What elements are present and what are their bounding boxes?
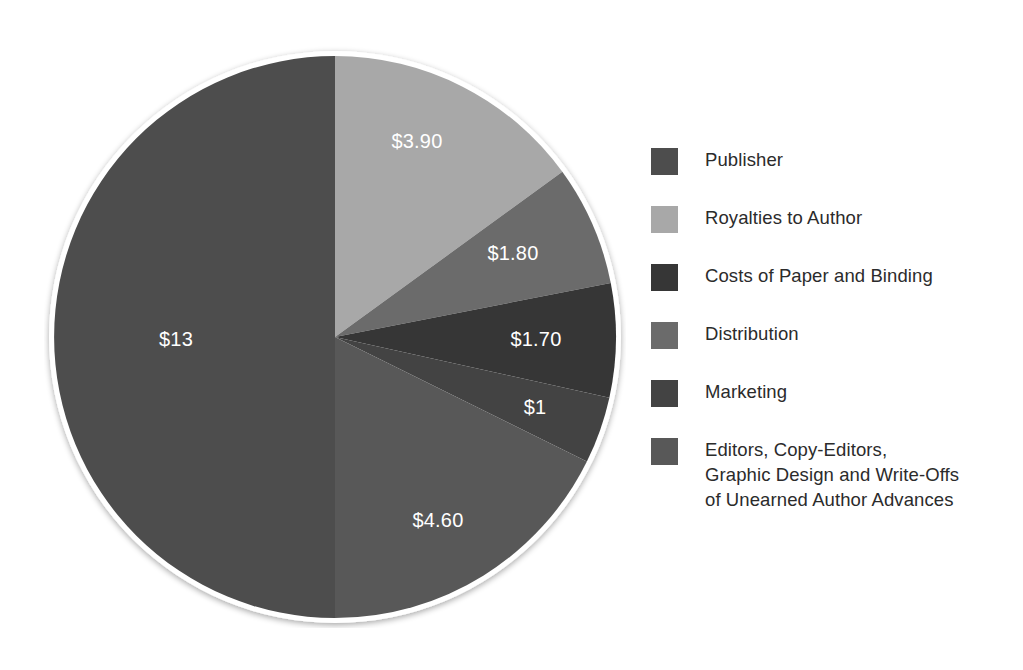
pie-chart-area: $3.90$1.80$1.70$1$4.60$13 (44, 46, 626, 628)
pie-slice-label: $1.80 (487, 242, 538, 264)
legend-item-label: Marketing (705, 379, 787, 405)
legend-color-swatch (651, 322, 678, 349)
legend-color-swatch (651, 206, 678, 233)
pie-slice-label: $13 (159, 328, 193, 350)
pie-slice-label: $1.70 (510, 328, 561, 350)
pie-slice-label: $4.60 (412, 509, 463, 531)
legend-item[interactable]: Publisher (651, 147, 1011, 175)
chart-legend: PublisherRoyalties to AuthorCosts of Pap… (651, 147, 1011, 512)
pie-chart-figure: $3.90$1.80$1.70$1$4.60$13 PublisherRoyal… (0, 0, 1023, 670)
legend-item[interactable]: Costs of Paper and Binding (651, 263, 1011, 291)
legend-item-label: Costs of Paper and Binding (705, 263, 933, 289)
pie-svg: $3.90$1.80$1.70$1$4.60$13 (44, 46, 626, 628)
legend-color-swatch (651, 264, 678, 291)
legend-color-swatch (651, 438, 678, 465)
pie-slice-label: $3.90 (391, 130, 442, 152)
legend-item[interactable]: Marketing (651, 379, 1011, 407)
legend-color-swatch (651, 380, 678, 407)
legend-color-swatch (651, 148, 678, 175)
legend-item-label: Royalties to Author (705, 205, 862, 231)
legend-item[interactable]: Royalties to Author (651, 205, 1011, 233)
legend-item-label: Distribution (705, 321, 799, 347)
legend-item-label: Editors, Copy-Editors, Graphic Design an… (705, 437, 959, 512)
legend-item[interactable]: Editors, Copy-Editors, Graphic Design an… (651, 437, 1011, 512)
pie-slice-label: $1 (524, 396, 547, 418)
pie-slice[interactable] (54, 56, 335, 618)
legend-item[interactable]: Distribution (651, 321, 1011, 349)
legend-item-label: Publisher (705, 147, 783, 173)
